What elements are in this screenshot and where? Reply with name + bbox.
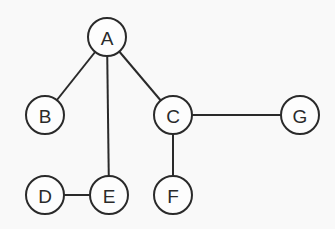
node-label: F (167, 186, 179, 207)
node-label: D (38, 186, 52, 207)
node-a: A (88, 18, 126, 56)
node-g: G (281, 96, 319, 134)
node-label: E (103, 186, 116, 207)
node-label: B (39, 106, 52, 127)
node-f: F (154, 176, 192, 214)
edge-a-e (107, 37, 109, 195)
node-label: G (293, 106, 308, 127)
node-label: A (101, 28, 114, 49)
node-d: D (26, 176, 64, 214)
node-label: C (166, 106, 180, 127)
node-c: C (154, 96, 192, 134)
graph-diagram: ABCGDEF (0, 0, 335, 229)
node-b: B (26, 96, 64, 134)
node-e: E (90, 176, 128, 214)
